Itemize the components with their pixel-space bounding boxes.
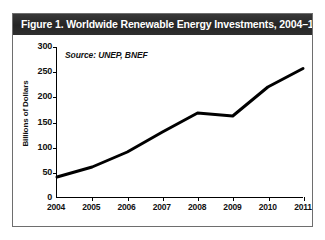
x-tick-mark: [304, 197, 305, 201]
data-line: [57, 68, 303, 177]
x-tick-label: 2010: [248, 202, 288, 212]
x-tick-mark: [128, 197, 129, 201]
x-tick-label: 2008: [177, 202, 217, 212]
x-tick-label: 2009: [212, 202, 252, 212]
x-tick-label: 2011: [283, 202, 323, 212]
x-tick-mark: [198, 197, 199, 201]
y-tick-label: 50: [26, 167, 52, 177]
x-tick-mark: [269, 197, 270, 201]
y-tick-mark: [53, 72, 57, 73]
figure-card: Figure 1. Worldwide Renewable Energy Inv…: [12, 13, 313, 227]
chart-region: Billions of Dollars 050100150200250300 2…: [12, 35, 313, 227]
y-tick-label: 200: [26, 91, 52, 101]
x-tick-mark: [233, 197, 234, 201]
x-tick-label: 2004: [36, 202, 76, 212]
y-tick-label: 100: [26, 142, 52, 152]
y-tick-label: 300: [26, 41, 52, 51]
y-tick-mark: [53, 148, 57, 149]
x-tick-label: 2007: [142, 202, 182, 212]
x-tick-label: 2006: [107, 202, 147, 212]
y-tick-label: 0: [26, 192, 52, 202]
y-tick-mark: [53, 97, 57, 98]
figure-title: Figure 1. Worldwide Renewable Energy Inv…: [12, 18, 319, 30]
y-tick-mark: [53, 47, 57, 48]
y-tick-mark: [53, 173, 57, 174]
x-tick-mark: [163, 197, 164, 201]
y-axis-tick-labels: 050100150200250300: [24, 35, 52, 227]
x-tick-label: 2005: [71, 202, 111, 212]
line-series-svg: [57, 47, 303, 197]
y-tick-mark: [53, 123, 57, 124]
x-tick-mark: [92, 197, 93, 201]
y-tick-label: 150: [26, 117, 52, 127]
figure-title-bar: Figure 1. Worldwide Renewable Energy Inv…: [12, 13, 313, 35]
plot-area: Source: UNEP, BNEF: [56, 47, 303, 198]
y-tick-label: 250: [26, 66, 52, 76]
